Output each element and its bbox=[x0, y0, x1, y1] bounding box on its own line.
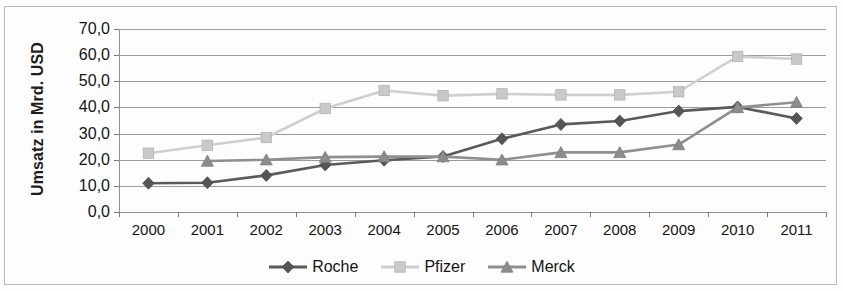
x-axis-tick-label: 2007 bbox=[544, 221, 577, 238]
data-point-marker bbox=[732, 51, 742, 61]
plot-area: 0,010,020,030,040,050,060,070,0 20002001… bbox=[119, 29, 826, 212]
x-axis-tick bbox=[178, 212, 179, 217]
x-axis-tick-label: 2004 bbox=[367, 221, 400, 238]
series-merck bbox=[201, 96, 802, 166]
data-point-marker bbox=[791, 54, 801, 64]
legend-item-roche[interactable]: Roche bbox=[268, 258, 358, 276]
data-point-marker bbox=[674, 87, 684, 97]
data-point-marker bbox=[497, 89, 507, 99]
square-marker-icon bbox=[380, 258, 420, 276]
y-axis-tick-label: 40,0 bbox=[79, 98, 110, 116]
data-point-marker bbox=[202, 140, 212, 150]
x-axis-tick bbox=[355, 212, 356, 217]
data-point-marker bbox=[202, 177, 213, 189]
y-axis-tick-label: 20,0 bbox=[79, 151, 110, 169]
data-point-marker bbox=[791, 112, 802, 124]
x-axis-tick-label: 2002 bbox=[250, 221, 283, 238]
series-pfizer bbox=[143, 51, 801, 158]
y-axis-tick-label: 60,0 bbox=[79, 46, 110, 64]
series-layer bbox=[119, 29, 826, 212]
legend-label: Merck bbox=[531, 258, 575, 276]
y-axis-tick-label: 30,0 bbox=[79, 125, 110, 143]
data-point-marker bbox=[379, 85, 389, 95]
data-point-marker bbox=[556, 90, 566, 100]
data-point-marker bbox=[614, 115, 625, 127]
series-line bbox=[207, 102, 796, 161]
legend-label: Pfizer bbox=[424, 258, 465, 276]
diamond-marker-icon bbox=[268, 258, 308, 276]
x-axis-tick bbox=[767, 212, 768, 217]
y-axis-title: Umsatz in Mrd. USD bbox=[29, 19, 47, 219]
data-point-marker bbox=[673, 105, 684, 117]
legend-item-pfizer[interactable]: Pfizer bbox=[380, 258, 465, 276]
x-axis-tick-label: 2000 bbox=[132, 221, 165, 238]
y-axis-tick-label: 50,0 bbox=[79, 72, 110, 90]
x-axis-tick-label: 2011 bbox=[780, 221, 812, 238]
x-axis-tick-label: 2008 bbox=[603, 221, 636, 238]
x-axis-tick bbox=[531, 212, 532, 217]
chart-screenshot: Umsatz in Mrd. USD 0,010,020,030,040,050… bbox=[0, 0, 843, 291]
x-axis-tick-label: 2001 bbox=[191, 221, 224, 238]
x-axis-tick bbox=[826, 212, 827, 217]
x-axis-tick bbox=[590, 212, 591, 217]
data-point-marker bbox=[496, 133, 507, 145]
chart-legend: RochePfizerMerck bbox=[0, 258, 843, 276]
data-point-marker bbox=[555, 118, 566, 130]
x-axis-tick bbox=[414, 212, 415, 217]
y-axis-tick-label: 70,0 bbox=[79, 20, 110, 38]
triangle-marker-icon bbox=[487, 258, 527, 276]
data-point-marker bbox=[261, 132, 271, 142]
legend-item-merck[interactable]: Merck bbox=[487, 258, 575, 276]
data-point-marker bbox=[320, 103, 330, 113]
x-axis-tick-label: 2005 bbox=[426, 221, 459, 238]
series-roche bbox=[143, 101, 802, 189]
legend-label: Roche bbox=[312, 258, 358, 276]
x-axis-tick-label: 2006 bbox=[485, 221, 518, 238]
x-axis-tick-label: 2003 bbox=[309, 221, 342, 238]
y-axis-tick-label: 10,0 bbox=[79, 177, 110, 195]
data-point-marker bbox=[143, 148, 153, 158]
x-axis-tick bbox=[237, 212, 238, 217]
x-axis-tick bbox=[708, 212, 709, 217]
x-axis-tick bbox=[473, 212, 474, 217]
data-point-marker bbox=[261, 169, 272, 181]
data-point-marker bbox=[438, 90, 448, 100]
series-line bbox=[148, 56, 796, 153]
x-axis-tick bbox=[649, 212, 650, 217]
data-point-marker bbox=[143, 177, 154, 189]
x-axis-tick bbox=[296, 212, 297, 217]
series-line bbox=[148, 107, 796, 183]
x-axis-tick-label: 2010 bbox=[721, 221, 754, 238]
data-point-marker bbox=[615, 90, 625, 100]
x-axis-tick bbox=[119, 212, 120, 217]
y-axis-tick-label: 0,0 bbox=[88, 203, 110, 221]
x-axis-tick-label: 2009 bbox=[662, 221, 695, 238]
